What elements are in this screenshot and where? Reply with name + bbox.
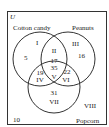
region-VI-value: 22 (64, 68, 72, 76)
venn-diagram: U Cotton candy Peanuts Popcorn I 5 II 17… (0, 0, 109, 127)
region-VIII-roman: VIII (84, 102, 97, 110)
region-III-roman: III (72, 40, 80, 48)
region-I-value: 5 (24, 54, 28, 62)
universe-label: U (10, 13, 16, 21)
region-V-value: 35 (51, 64, 59, 72)
region-II-roman: II (52, 47, 57, 55)
set-label-cotton-candy: Cotton candy (13, 24, 51, 32)
region-III-value: 16 (78, 52, 86, 60)
region-VI-roman: VI (62, 76, 70, 84)
set-label-popcorn: Popcorn (76, 117, 100, 125)
region-V-roman: V (51, 73, 56, 81)
region-VII-roman: VII (49, 98, 59, 106)
region-VIII-value: 10 (13, 116, 21, 124)
region-I-roman: I (36, 39, 39, 47)
region-VII-value: 31 (51, 89, 59, 97)
set-label-peanuts: Peanuts (72, 24, 94, 32)
region-IV-roman: IV (36, 76, 43, 84)
